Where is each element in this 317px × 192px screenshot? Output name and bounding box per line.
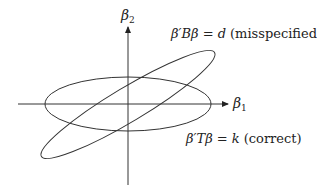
correct-label: β′Tβ = k(correct)	[185, 131, 302, 146]
ellipse-diagram: β2 β1 β′Bβ = d(misspecified) β′Tβ = k(co…	[0, 0, 317, 192]
y-axis-label: β2	[120, 7, 135, 25]
misspecified-label: β′Bβ = d(misspecified)	[170, 26, 317, 41]
x-axis-label: β1	[232, 95, 247, 113]
